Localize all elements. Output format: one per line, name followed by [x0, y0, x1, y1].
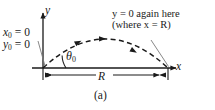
initial-y-value: = 0 [15, 38, 30, 50]
y-axis-label: y [45, 4, 50, 16]
range-arrow-left [45, 73, 52, 78]
x-axis-label: x [176, 60, 181, 72]
landing-annotation: y = 0 again here (where x = R) [112, 8, 180, 31]
figure-caption: (a) [94, 89, 107, 101]
initial-x-value: = 0 [15, 26, 30, 38]
landing-annotation-line1: y = 0 again here [112, 8, 180, 19]
figure-canvas [0, 0, 215, 110]
projectile-motion-figure: x0 = 0 y0 = 0 y x θ0 R y = 0 again here … [0, 0, 215, 110]
initial-y-subscript: 0 [8, 43, 12, 52]
trajectory-path [43, 39, 168, 68]
trajectory-arrow-descending [129, 47, 138, 55]
range-arrow-right [159, 73, 166, 78]
range-label: R [98, 70, 105, 82]
landing-annotation-line2: (where x = R) [112, 19, 180, 30]
launch-angle-label: θ0 [66, 50, 76, 64]
initial-y-label: y0 = 0 [3, 38, 30, 52]
trajectory-arrow-apex [99, 36, 106, 41]
landing-leader-line [151, 40, 169, 67]
origin-leader-line [38, 41, 45, 66]
theta-subscript: 0 [72, 55, 76, 64]
